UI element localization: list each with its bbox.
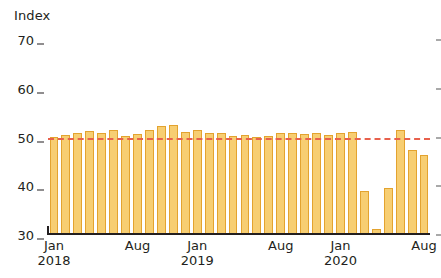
bar (181, 132, 190, 235)
y-tick-mark-right-40 (436, 186, 441, 187)
bar (229, 136, 238, 235)
y-tick-mark (37, 44, 44, 45)
bar (288, 133, 297, 235)
bar (420, 155, 429, 235)
bar (145, 130, 154, 235)
reference-line-50 (48, 138, 430, 140)
bar (169, 125, 178, 235)
x-tick-month: Aug (411, 238, 436, 253)
bar (133, 134, 142, 235)
bar (300, 134, 309, 235)
y-tick-mark (37, 190, 44, 191)
y-tick-60: 60 (17, 81, 48, 96)
plot-area: 3040506070 (48, 40, 430, 235)
bar (348, 132, 357, 235)
x-tick-month: Jan (330, 238, 350, 253)
bar (408, 150, 417, 235)
y-tick-mark (37, 141, 44, 142)
bar (312, 133, 321, 235)
x-tick-label: Jan2020 (324, 238, 357, 268)
y-tick-70: 70 (17, 33, 48, 48)
bar (264, 136, 273, 235)
y-axis-stub (47, 226, 49, 235)
y-tick-mark-right-60 (436, 88, 441, 89)
x-tick-label: Aug (125, 238, 150, 253)
x-axis-labels: Jan2018AugJan2019AugJan2020Aug (48, 238, 430, 278)
y-tick-label: 70 (17, 33, 34, 48)
bar (50, 137, 59, 235)
bar (205, 133, 214, 235)
bar (360, 191, 369, 235)
bar (193, 130, 202, 235)
x-tick-year: 2020 (324, 253, 357, 268)
x-tick-label: Aug (268, 238, 293, 253)
y-tick-mark-right-70 (436, 40, 441, 41)
bar (396, 130, 405, 235)
x-tick-label: Jan2018 (37, 238, 70, 268)
x-tick-month: Jan (44, 238, 64, 253)
bar (276, 133, 285, 235)
y-tick-mark-right-50 (436, 137, 441, 138)
bar (97, 133, 106, 235)
y-tick-40: 40 (17, 179, 48, 194)
y-tick-label: 40 (17, 179, 34, 194)
bar (324, 135, 333, 235)
bar (109, 130, 118, 235)
bar (336, 133, 345, 235)
y-axis-title: Index (14, 8, 50, 23)
bar (85, 131, 94, 235)
bar (73, 133, 82, 235)
y-tick-50: 50 (17, 130, 48, 145)
y-tick-label: 60 (17, 81, 34, 96)
bar (217, 133, 226, 235)
bar (157, 126, 166, 235)
x-tick-label: Jan2019 (181, 238, 214, 268)
x-tick-year: 2018 (37, 253, 70, 268)
x-tick-month: Aug (125, 238, 150, 253)
bar (384, 188, 393, 235)
y-tick-label: 50 (17, 130, 34, 145)
x-axis-line (48, 233, 430, 235)
y-tick-mark (37, 92, 44, 93)
bar (61, 135, 70, 235)
bar (241, 135, 250, 235)
bar (121, 136, 130, 235)
y-tick-label: 30 (17, 228, 34, 243)
bar (252, 137, 261, 235)
x-tick-year: 2019 (181, 253, 214, 268)
x-tick-month: Aug (268, 238, 293, 253)
x-tick-label: Aug (411, 238, 436, 253)
y-tick-mark-right-30 (436, 235, 441, 236)
x-tick-month: Jan (187, 238, 207, 253)
